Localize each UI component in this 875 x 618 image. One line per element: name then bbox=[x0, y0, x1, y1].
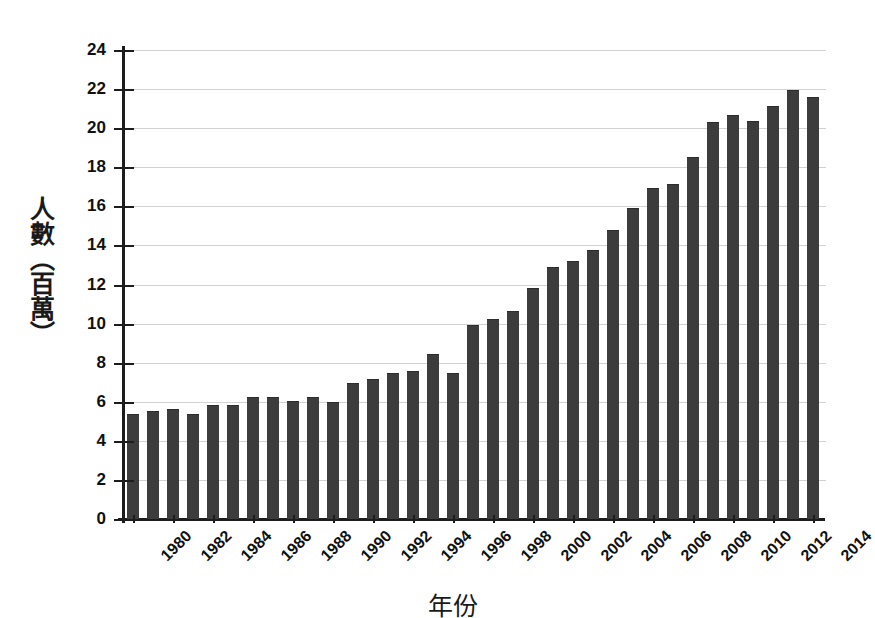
x-axis-tick bbox=[373, 515, 375, 523]
x-axis-tick bbox=[773, 515, 775, 523]
x-axis-tick bbox=[493, 515, 495, 523]
bar bbox=[707, 122, 719, 519]
x-axis-tick bbox=[173, 515, 175, 523]
bar bbox=[127, 414, 139, 519]
y-axis-tick bbox=[114, 285, 134, 287]
y-axis-tick-label: 0 bbox=[70, 509, 106, 529]
bar-series bbox=[123, 50, 823, 519]
bar bbox=[227, 405, 239, 519]
x-axis-tick bbox=[213, 515, 215, 523]
y-axis-tick-label: 2 bbox=[70, 470, 106, 490]
bar bbox=[147, 411, 159, 519]
y-axis-tick-label: 8 bbox=[70, 353, 106, 373]
x-axis-tick-label: 2010 bbox=[757, 527, 795, 565]
x-axis-tick bbox=[653, 515, 655, 523]
y-axis-tick-label: 4 bbox=[70, 431, 106, 451]
bar bbox=[647, 188, 659, 519]
x-axis-tick-label: 2012 bbox=[797, 527, 835, 565]
x-axis-tick-label: 1982 bbox=[197, 527, 235, 565]
x-axis-tick-label: 2000 bbox=[557, 527, 595, 565]
bar bbox=[567, 261, 579, 519]
y-axis-tick-label: 22 bbox=[70, 79, 106, 99]
x-axis-tick-label: 1998 bbox=[517, 527, 555, 565]
bar bbox=[667, 184, 679, 519]
y-axis-tick bbox=[114, 50, 134, 52]
y-axis-tick-label: 6 bbox=[70, 392, 106, 412]
bar bbox=[167, 409, 179, 519]
y-axis-tick-label: 10 bbox=[70, 314, 106, 334]
y-axis-tick-label: 18 bbox=[70, 157, 106, 177]
bar bbox=[287, 401, 299, 519]
x-axis-tick bbox=[253, 515, 255, 523]
x-axis-tick bbox=[813, 515, 815, 523]
bar bbox=[547, 267, 559, 519]
y-axis-tick bbox=[114, 128, 134, 130]
y-axis-tick-label: 24 bbox=[70, 40, 106, 60]
x-axis-tick-label: 1994 bbox=[437, 527, 475, 565]
y-axis-tick bbox=[114, 324, 134, 326]
bar bbox=[247, 397, 259, 519]
bar bbox=[727, 115, 739, 519]
y-axis-title: 人數（百萬） bbox=[14, 196, 54, 346]
bar bbox=[267, 397, 279, 519]
x-axis-tick-label: 1980 bbox=[157, 527, 195, 565]
bar bbox=[327, 402, 339, 519]
y-axis-tick bbox=[114, 206, 134, 208]
x-axis-tick bbox=[733, 515, 735, 523]
y-axis-tick bbox=[114, 245, 134, 247]
bar bbox=[627, 208, 639, 519]
bar bbox=[607, 230, 619, 519]
bar bbox=[347, 383, 359, 519]
bar bbox=[747, 121, 759, 519]
x-axis-tick-label: 2004 bbox=[637, 527, 675, 565]
y-axis-tick-label: 12 bbox=[70, 275, 106, 295]
x-axis-tick-label: 2006 bbox=[677, 527, 715, 565]
bar bbox=[387, 373, 399, 519]
bar bbox=[587, 250, 599, 519]
x-axis-tick bbox=[413, 515, 415, 523]
y-axis-tick bbox=[114, 89, 134, 91]
y-axis-tick-label: 16 bbox=[70, 196, 106, 216]
x-axis-tick bbox=[693, 515, 695, 523]
bar bbox=[207, 405, 219, 519]
x-axis-tick bbox=[333, 515, 335, 523]
y-axis-tick bbox=[114, 519, 134, 521]
x-axis-tick bbox=[453, 515, 455, 523]
x-axis-tick bbox=[293, 515, 295, 523]
y-axis-tick bbox=[114, 167, 134, 169]
y-axis-tick-label: 14 bbox=[70, 235, 106, 255]
y-axis-tick-label: 20 bbox=[70, 118, 106, 138]
bar bbox=[787, 90, 799, 519]
x-axis-tick-label: 2008 bbox=[717, 527, 755, 565]
y-axis-tick bbox=[114, 363, 134, 365]
x-axis-title: 年份 bbox=[0, 586, 846, 618]
bar bbox=[687, 157, 699, 519]
y-axis-tick bbox=[114, 480, 134, 482]
bar bbox=[467, 325, 479, 519]
bar bbox=[307, 397, 319, 519]
x-axis-tick-label: 1984 bbox=[237, 527, 275, 565]
x-axis-tick bbox=[533, 515, 535, 523]
x-axis-tick bbox=[613, 515, 615, 523]
y-axis-tick bbox=[114, 441, 134, 443]
bar bbox=[487, 319, 499, 519]
x-axis-tick-label: 1986 bbox=[277, 527, 315, 565]
y-axis-tick bbox=[114, 402, 134, 404]
x-axis-tick-labels: 1980198219841986198819901992199419961998… bbox=[123, 521, 833, 591]
bar bbox=[187, 414, 199, 519]
bar bbox=[807, 97, 819, 519]
bar bbox=[527, 288, 539, 519]
x-axis-tick bbox=[573, 515, 575, 523]
bar bbox=[427, 354, 439, 519]
x-axis-tick-label: 1992 bbox=[397, 527, 435, 565]
bar bbox=[767, 106, 779, 519]
bar bbox=[367, 379, 379, 519]
x-axis-tick-label: 1988 bbox=[317, 527, 355, 565]
x-axis-tick-label: 1990 bbox=[357, 527, 395, 565]
bar bbox=[447, 373, 459, 519]
x-axis-tick-label: 2014 bbox=[837, 527, 875, 565]
bar bbox=[507, 311, 519, 519]
bar bbox=[407, 371, 419, 519]
x-axis-tick-label: 1996 bbox=[477, 527, 515, 565]
